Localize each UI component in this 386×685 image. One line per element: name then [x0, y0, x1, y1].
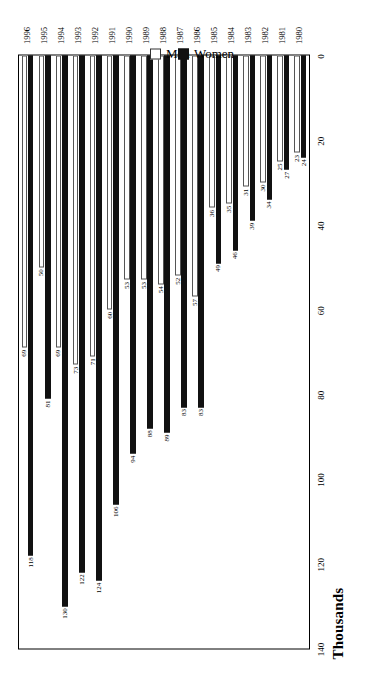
- bar-value-label: 83: [180, 406, 188, 416]
- bar-men: 53: [141, 55, 147, 279]
- bar-women: 122: [79, 55, 85, 572]
- bar-group: 5283: [173, 55, 190, 648]
- category-tick-label: 1994: [56, 18, 66, 52]
- bar-value-label: 94: [129, 452, 137, 462]
- value-tick-label: 0: [316, 54, 326, 59]
- rotated-chart-wrapper: Thousands 691185081691307312271124601065…: [0, 0, 386, 685]
- bar-men: 69: [56, 55, 62, 347]
- bar-men: 23: [294, 55, 300, 152]
- bar-value-label: 124: [95, 579, 103, 593]
- bar-women: 27: [284, 55, 290, 169]
- bar-group: 71124: [87, 55, 104, 648]
- value-tick-label: 100: [316, 473, 326, 487]
- bar-value-label: 34: [265, 198, 273, 208]
- value-tick-label: 80: [316, 390, 326, 399]
- bar-value-label: 130: [61, 605, 69, 619]
- bar-men: 53: [124, 55, 130, 279]
- bar-group: 3139: [241, 55, 258, 648]
- bar-women: 46: [233, 55, 239, 250]
- bar-group: 3649: [207, 55, 224, 648]
- bar-men: 69: [22, 55, 28, 347]
- bar-group: 73122: [70, 55, 87, 648]
- bar-men: 71: [90, 55, 96, 356]
- bar-value-label: 81: [44, 397, 52, 407]
- bar-group: 5388: [138, 55, 155, 648]
- bar-group: 3034: [258, 55, 275, 648]
- bar-value-label: 122: [78, 571, 86, 585]
- bar-men: 30: [260, 55, 266, 182]
- bar-value-label: 49: [214, 262, 222, 272]
- bar-group: 3546: [224, 55, 241, 648]
- bar-value-label: 83: [197, 406, 205, 416]
- bar-men: 54: [158, 55, 164, 284]
- bar-group: 5783: [190, 55, 207, 648]
- bar-women: 94: [130, 55, 136, 453]
- bar-men: 35: [226, 55, 232, 203]
- bar-men: 60: [107, 55, 113, 309]
- bar-women: 88: [147, 55, 153, 428]
- bar-women: 118: [28, 55, 34, 555]
- category-tick-label: 1993: [73, 18, 83, 52]
- legend-swatch-women: [178, 48, 189, 59]
- legend-item: Women: [178, 45, 218, 61]
- bar-women: 34: [267, 55, 273, 199]
- bar-men: 50: [39, 55, 45, 267]
- bar-group: 60106: [104, 55, 121, 648]
- value-tick-label: 60: [316, 306, 326, 315]
- bar-men: 52: [175, 55, 181, 275]
- bar-women: 124: [96, 55, 102, 580]
- legend-label: Women: [194, 45, 234, 61]
- bar-value-label: 88: [146, 427, 154, 437]
- category-tick-label: 1983: [243, 18, 253, 52]
- value-tick-label: 120: [316, 558, 326, 572]
- bar-women: 83: [181, 55, 187, 407]
- bar-women: 130: [62, 55, 68, 606]
- bar-value-label: 24: [300, 156, 308, 166]
- bar-group: 5489: [155, 55, 172, 648]
- bar-women: 106: [113, 55, 119, 504]
- category-tick-label: 1996: [22, 18, 32, 52]
- bar-men: 73: [73, 55, 79, 364]
- value-axis: 140120100806040200: [312, 54, 338, 649]
- category-tick-label: 1982: [260, 18, 270, 52]
- bar-value-label: 27: [283, 168, 291, 178]
- bar-value-label: 106: [112, 503, 120, 517]
- category-tick-label: 1981: [277, 18, 287, 52]
- bar-women: 49: [216, 55, 222, 263]
- bar-value-label: 39: [248, 219, 256, 229]
- bar-group: 69118: [19, 55, 36, 648]
- bar-value-label: 46: [231, 249, 239, 259]
- bar-value-label: 118: [27, 554, 35, 567]
- category-tick-label: 1992: [90, 18, 100, 52]
- bar-men: 36: [209, 55, 215, 207]
- bar-group: 5081: [36, 55, 53, 648]
- legend-swatch-men: [150, 48, 161, 59]
- value-tick-label: 20: [316, 136, 326, 145]
- value-tick-label: 40: [316, 221, 326, 230]
- bar-women: 24: [301, 55, 307, 157]
- category-tick-label: 1980: [294, 18, 304, 52]
- category-tick-label: 1991: [107, 18, 117, 52]
- plot-area: 6911850816913073122711246010653945388548…: [18, 54, 310, 649]
- bar-men: 57: [192, 55, 198, 296]
- bar-group: 2527: [275, 55, 292, 648]
- bar-men: 31: [243, 55, 249, 186]
- bar-group: 5394: [121, 55, 138, 648]
- bar-chart-figure: Thousands 691185081691307312271124601065…: [0, 0, 386, 685]
- bar-women: 39: [250, 55, 256, 220]
- chart-legend: MenWomen: [150, 5, 206, 45]
- bar-group: 2324: [292, 55, 309, 648]
- bar-men: 25: [277, 55, 283, 161]
- category-tick-label: 1995: [39, 18, 49, 52]
- bar-value-label: 89: [163, 431, 171, 441]
- category-tick-label: 1990: [124, 18, 134, 52]
- bar-group: 69130: [53, 55, 70, 648]
- value-tick-label: 140: [316, 642, 326, 656]
- bar-women: 89: [164, 55, 170, 432]
- bar-women: 83: [198, 55, 204, 407]
- bar-women: 81: [45, 55, 51, 398]
